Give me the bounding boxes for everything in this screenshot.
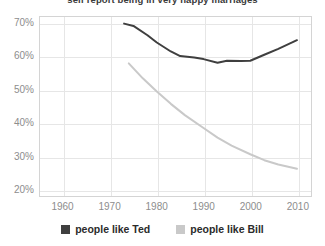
chart-title: self report being in very happy marriage…	[0, 0, 325, 5]
x-tick-label: 1980	[137, 201, 177, 212]
series-line	[124, 24, 297, 63]
y-tick-label: 50%	[0, 85, 34, 95]
legend-swatch-icon	[176, 225, 185, 234]
legend-entry[interactable]: people like Ted	[61, 224, 150, 235]
y-tick-label: 40%	[0, 118, 34, 128]
legend-swatch-icon	[61, 225, 70, 234]
y-tick-label: 20%	[0, 185, 34, 195]
y-tick-label: 60%	[0, 51, 34, 61]
legend-entry[interactable]: people like Bill	[176, 224, 264, 235]
legend-label: people like Bill	[190, 224, 264, 235]
y-tick-label: 70%	[0, 18, 34, 28]
x-tick-label: 2000	[231, 201, 271, 212]
series-lines	[40, 17, 311, 196]
y-tick-label: 30%	[0, 152, 34, 162]
x-tick-label: 1970	[90, 201, 130, 212]
chart-legend: people like Tedpeople like Bill	[0, 224, 325, 235]
series-line	[129, 63, 297, 168]
legend-label: people like Ted	[75, 224, 150, 235]
plot-area	[39, 16, 312, 197]
x-tick-label: 1990	[184, 201, 224, 212]
x-tick-label: 1960	[43, 201, 83, 212]
x-tick-label: 2010	[278, 201, 318, 212]
chart-container: self report being in very happy marriage…	[0, 0, 325, 246]
